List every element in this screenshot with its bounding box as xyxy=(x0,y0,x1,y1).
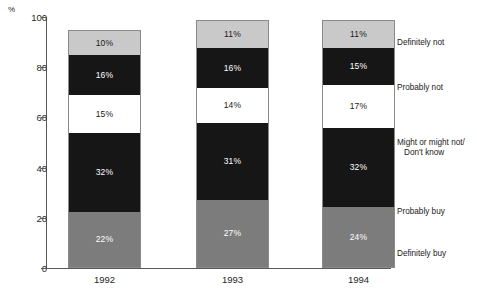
bar-segment-defnot[interactable]: 10% xyxy=(69,31,140,56)
legend-item[interactable]: Probably buy xyxy=(397,207,477,217)
bar-segment-value-label: 16% xyxy=(96,71,114,80)
y-axis-line xyxy=(46,17,47,269)
bar-segment-defnot[interactable]: 11% xyxy=(197,21,268,48)
bar-1993[interactable]: 11%16%14%31%27% xyxy=(196,20,269,268)
bar-segment-value-label: 10% xyxy=(96,39,114,48)
bar-segment-value-label: 24% xyxy=(350,233,368,242)
bar-segment-value-label: 22% xyxy=(96,235,114,244)
bar-segment-value-label: 15% xyxy=(96,110,114,119)
bar-segment-value-label: 11% xyxy=(224,30,241,39)
y-axis-tick: 40 xyxy=(0,168,47,169)
bar-segment-probbuy[interactable]: 32% xyxy=(323,128,394,208)
legend-item[interactable]: Probably not xyxy=(397,83,477,93)
bar-segment-value-label: 14% xyxy=(224,101,242,110)
legend-item[interactable]: Definitely buy xyxy=(397,249,477,259)
x-axis-label-1994: 1994 xyxy=(322,274,395,285)
x-axis-label-1992: 1992 xyxy=(68,274,141,285)
y-axis-tick-mark xyxy=(41,218,47,219)
bar-segment-defbuy[interactable]: 22% xyxy=(69,212,140,267)
bar-segment-value-label: 16% xyxy=(224,64,242,73)
legend-item-label: Might or might not/ xyxy=(397,138,465,147)
bar-segment-defbuy[interactable]: 24% xyxy=(323,207,394,267)
y-axis-tick-mark xyxy=(41,117,47,118)
legend-item-label: Probably buy xyxy=(397,207,445,216)
bar-segment-value-label: 15% xyxy=(350,62,368,71)
bar-segment-might[interactable]: 15% xyxy=(69,95,140,132)
y-axis-tick-mark xyxy=(41,17,47,18)
legend-item-label-line2: Don't know xyxy=(397,148,477,158)
y-axis-tick: 20 xyxy=(0,218,47,219)
bar-1992[interactable]: 10%16%15%32%22% xyxy=(68,30,141,268)
y-axis-tick-mark xyxy=(41,268,47,269)
bar-segment-defbuy[interactable]: 27% xyxy=(197,200,268,267)
bar-segment-probnot[interactable]: 15% xyxy=(323,48,394,85)
bar-segment-probnot[interactable]: 16% xyxy=(69,55,140,95)
bar-segment-defnot[interactable]: 11% xyxy=(323,21,394,48)
bar-1994[interactable]: 11%15%17%32%24% xyxy=(322,20,395,268)
bar-segment-probnot[interactable]: 16% xyxy=(197,48,268,88)
y-axis-tick: 60 xyxy=(0,117,47,118)
bar-segment-probbuy[interactable]: 32% xyxy=(69,133,140,213)
bar-segment-value-label: 32% xyxy=(350,163,368,172)
legend-item-label: Probably not xyxy=(397,83,443,92)
legend-item-label: Definitely buy xyxy=(397,249,446,258)
bar-segment-value-label: 27% xyxy=(224,229,242,238)
bar-segment-value-label: 32% xyxy=(96,168,114,177)
bar-segment-might[interactable]: 14% xyxy=(197,88,268,123)
bar-segment-value-label: 17% xyxy=(350,102,368,111)
bar-segment-probbuy[interactable]: 31% xyxy=(197,123,268,200)
legend-item[interactable]: Might or might not/Don't know xyxy=(397,138,477,158)
x-axis-label-1993: 1993 xyxy=(196,274,269,285)
bar-segment-value-label: 31% xyxy=(224,157,242,166)
y-axis-tick: 0 xyxy=(0,268,47,269)
stacked-bar-chart: % 100806040200 10%16%15%32%22%11%16%14%3… xyxy=(0,0,477,298)
bar-segment-value-label: 11% xyxy=(350,30,367,39)
y-axis-tick: 100 xyxy=(0,17,47,18)
x-axis-line xyxy=(46,268,391,269)
y-axis-tick: 80 xyxy=(0,67,47,68)
legend-item-label: Definitely not xyxy=(397,38,444,47)
legend-item[interactable]: Definitely not xyxy=(397,38,477,48)
bar-segment-might[interactable]: 17% xyxy=(323,85,394,127)
y-axis-tick-mark xyxy=(41,67,47,68)
y-axis-tick-mark xyxy=(41,168,47,169)
